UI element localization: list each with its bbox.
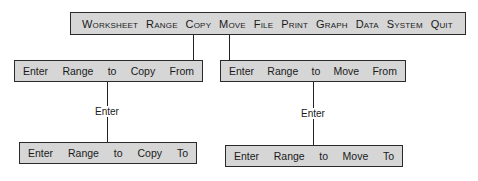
menu-item-system[interactable]: System	[387, 18, 423, 30]
prompt-word: Move	[334, 65, 360, 77]
prompt-word: to	[312, 65, 321, 77]
copy-to-prompt: Enter Range to Copy To	[19, 142, 197, 164]
prompt-word: Enter	[229, 65, 254, 77]
prompt-word: Move	[343, 150, 369, 162]
prompt-word: Range	[267, 65, 298, 77]
prompt-word: Enter	[234, 150, 259, 162]
menu-item-data[interactable]: Data	[356, 18, 379, 30]
menu-item-graph[interactable]: Graph	[316, 18, 348, 30]
menu-item-worksheet[interactable]: Worksheet	[82, 18, 138, 30]
move-enter-label: Enter	[301, 108, 325, 119]
prompt-word: to	[114, 147, 123, 159]
prompt-word: To	[177, 147, 188, 159]
move-to-prompt: Enter Range to Move To	[225, 145, 403, 167]
move-from-prompt: Enter Range to Move From	[220, 60, 406, 82]
prompt-word: Range	[274, 150, 305, 162]
prompt-word: Copy	[138, 147, 163, 159]
prompt-word: Enter	[28, 147, 53, 159]
copy-enter-label: Enter	[95, 106, 119, 117]
prompt-word: Enter	[23, 65, 48, 77]
main-menu-bar: Worksheet Range Copy Move File Print Gra…	[70, 12, 466, 35]
prompt-word: Range	[68, 147, 99, 159]
prompt-word: From	[169, 65, 194, 77]
menu-item-move[interactable]: Move	[219, 18, 246, 30]
copy-from-prompt: Enter Range to Copy From	[14, 60, 203, 82]
prompt-word: Copy	[131, 65, 156, 77]
connector-move-to-prompt	[229, 35, 230, 60]
prompt-word: From	[372, 65, 397, 77]
prompt-word: Range	[62, 65, 93, 77]
menu-item-copy[interactable]: Copy	[186, 18, 212, 30]
menu-item-quit[interactable]: Quit	[431, 18, 453, 30]
prompt-word: To	[383, 150, 394, 162]
menu-item-print[interactable]: Print	[281, 18, 308, 30]
menu-item-range[interactable]: Range	[146, 18, 178, 30]
prompt-word: to	[108, 65, 117, 77]
prompt-word: to	[319, 150, 328, 162]
menu-item-file[interactable]: File	[254, 18, 274, 30]
connector-copy-to-prompt	[193, 35, 194, 60]
